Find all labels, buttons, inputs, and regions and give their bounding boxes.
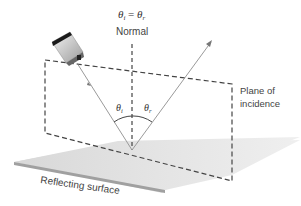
- plane-label-line1: Plane of: [240, 85, 275, 96]
- normal-label: Normal: [116, 26, 148, 37]
- equation-label: θi = θr: [118, 8, 145, 22]
- plane-label-line2: incidence: [240, 98, 280, 109]
- incident-ray: [77, 63, 132, 150]
- angle-arc: [114, 116, 152, 122]
- angle-incidence-label: θi: [116, 102, 123, 114]
- reflection-diagram: θi = θr Normal Plane of incidence θi θr …: [0, 0, 301, 206]
- reflected-ray: [132, 40, 212, 150]
- light-source-icon: [52, 32, 84, 66]
- reflected-arrow-icon: [206, 40, 212, 47]
- angle-reflection-label: θr: [144, 102, 152, 114]
